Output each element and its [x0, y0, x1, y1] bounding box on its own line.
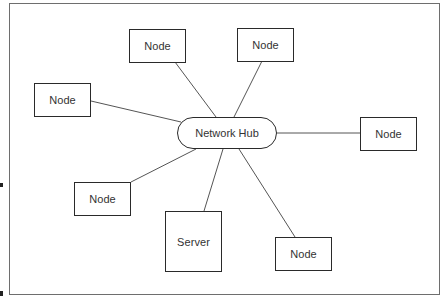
- node-label: Node: [144, 40, 171, 52]
- server-label: Server: [177, 236, 210, 248]
- page-edge-mark: [0, 291, 3, 296]
- node-label: Node: [375, 128, 402, 140]
- server-box: Server: [165, 211, 222, 272]
- link-node-bottom-right: [239, 149, 295, 237]
- node-top-right: Node: [237, 28, 294, 62]
- node-label: Node: [252, 39, 279, 51]
- node-bottom-left: Node: [74, 182, 131, 216]
- node-left: Node: [34, 83, 91, 117]
- link-node-left: [91, 101, 181, 122]
- link-node-top-right: [234, 61, 262, 117]
- node-label: Node: [89, 193, 116, 205]
- node-label: Node: [290, 248, 317, 260]
- node-bottom-right: Node: [275, 237, 332, 271]
- link-node-bottom-left: [131, 149, 196, 182]
- node-top-left: Node: [129, 29, 186, 63]
- link-server: [204, 149, 223, 211]
- node-right: Node: [360, 117, 417, 151]
- page-edge-mark: [0, 183, 3, 187]
- network-hub-label: Network Hub: [195, 127, 259, 139]
- network-hub: Network Hub: [177, 117, 277, 149]
- link-node-top-left: [175, 62, 216, 117]
- node-label: Node: [49, 94, 76, 106]
